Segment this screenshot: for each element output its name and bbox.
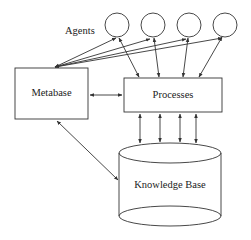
- knowledge-base-label: Knowledge Base: [119, 179, 221, 190]
- diagram-canvas: [0, 0, 251, 240]
- agent-node-3: [177, 13, 201, 37]
- agent-node-4: [213, 13, 237, 37]
- agent-node-2: [141, 13, 165, 37]
- metabase-kb-edge: [57, 121, 118, 180]
- agents-label: Agents: [65, 25, 95, 36]
- process-kb-edges: [140, 114, 196, 143]
- metabase-agent-edges: [55, 38, 222, 67]
- processes-label: Processes: [124, 89, 222, 100]
- agent-node-1: [105, 13, 129, 37]
- metabase-label: Metabase: [15, 87, 88, 98]
- agent-process-edges: [119, 37, 222, 77]
